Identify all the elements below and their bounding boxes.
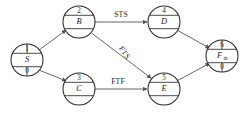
node-s-id: 1: [25, 45, 29, 53]
edge-s-to-b: [39, 30, 66, 50]
edge-label-fts: FTS: [117, 44, 132, 60]
node-b[interactable]: 2 B: [63, 6, 95, 38]
node-c-id: 3: [77, 74, 81, 82]
node-e-id: 5: [162, 74, 166, 82]
edge-label-ftf: FTF: [111, 77, 125, 86]
node-e[interactable]: 5 E: [148, 73, 180, 105]
node-d-name: D: [160, 17, 167, 26]
node-f[interactable]: 6 F in 0: [206, 40, 238, 72]
node-s[interactable]: 1 S 0: [11, 44, 43, 76]
network-canvas: STS FTS FTF 1 S 0 2 B: [0, 0, 245, 113]
edge-d-to-f: [178, 30, 210, 48]
node-f-name: F: [216, 51, 223, 60]
node-b-id: 2: [77, 7, 81, 15]
node-d-id: 4: [162, 7, 166, 15]
edge-label-sts: STS: [114, 10, 128, 19]
node-f-sub: 0: [220, 63, 224, 71]
edge-label-layer: STS FTS FTF: [111, 10, 132, 86]
edge-e-to-f: [178, 63, 210, 80]
node-d[interactable]: 4 D: [148, 6, 180, 38]
node-e-name: E: [160, 84, 166, 93]
node-f-id: 6: [220, 41, 224, 49]
node-s-sub: 0: [25, 67, 29, 75]
node-c[interactable]: 3 C: [63, 73, 95, 105]
node-c-name: C: [76, 84, 82, 93]
precedence-network-diagram: STS FTS FTF 1 S 0 2 B: [0, 0, 245, 113]
node-f-name-subscript: in: [223, 55, 227, 61]
edge-s-to-c: [39, 70, 66, 81]
node-b-name: B: [76, 17, 81, 26]
